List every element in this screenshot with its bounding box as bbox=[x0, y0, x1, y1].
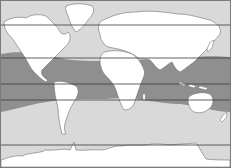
world-map bbox=[0, 0, 231, 168]
map-canvas bbox=[0, 0, 231, 168]
